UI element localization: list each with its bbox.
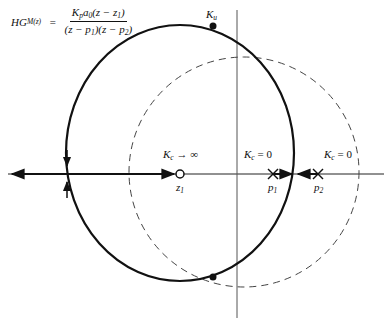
label-p2: p2 (314, 181, 323, 195)
label-p1: p1 (268, 181, 277, 195)
eq-lhs-sub: M(z) (27, 17, 41, 26)
eq-numerator: Kpa0(z − z1) (70, 6, 127, 22)
transfer-function-equation: HGM(z) = Kpa0(z − z1) (z − p1)(z − p2) (11, 6, 132, 37)
zero-z1 (176, 170, 184, 178)
eq-fraction: Kpa0(z − z1) (z − p1)(z − p2) (65, 6, 133, 37)
label-kc-zero-p1: Kc = 0 (244, 148, 272, 162)
ku-point-bottom (210, 274, 217, 281)
unit-circle (129, 57, 359, 287)
root-locus-diagram (0, 0, 392, 327)
label-ku: Ku (206, 8, 217, 22)
eq-equals: = (49, 16, 56, 28)
label-z1: z1 (176, 181, 184, 195)
ku-point-top (210, 23, 217, 30)
eq-lhs: HG (11, 16, 27, 28)
label-kc-zero-p2: Kc = 0 (324, 148, 352, 162)
label-kc-infinity: Kc → ∞ (163, 148, 198, 162)
eq-denominator: (z − p1)(z − p2) (65, 22, 133, 37)
